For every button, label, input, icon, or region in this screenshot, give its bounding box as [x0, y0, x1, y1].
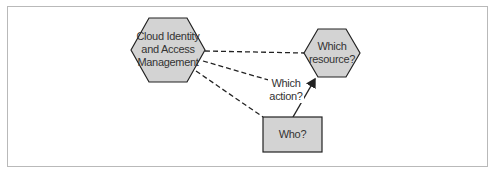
node-resource-label: Which resource?: [304, 40, 360, 66]
diagram-canvas: [0, 0, 495, 173]
node-ciam-label: Cloud Identity and Access Management: [131, 30, 205, 69]
node-who-label: Who?: [263, 128, 322, 141]
edge-ciam-who: [196, 71, 263, 117]
edge-label-action: Which action?: [268, 77, 304, 103]
edge-ciam-action: [203, 61, 272, 81]
edge-ciam-resource: [205, 51, 304, 53]
